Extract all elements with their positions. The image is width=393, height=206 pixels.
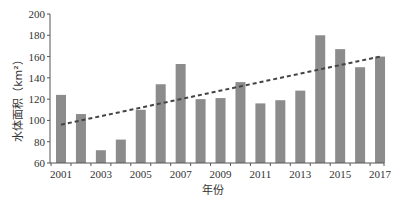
bar-2001 bbox=[56, 95, 66, 163]
bar-2004 bbox=[116, 140, 126, 163]
bar-2009 bbox=[216, 98, 226, 163]
bar-2013 bbox=[295, 91, 305, 163]
bars-group bbox=[56, 35, 385, 163]
y-tick-label: 60 bbox=[34, 157, 46, 169]
x-axis-title: 年份 bbox=[202, 183, 224, 197]
bar-2006 bbox=[156, 84, 166, 163]
y-tick-label: 180 bbox=[29, 29, 46, 41]
bar-2012 bbox=[275, 100, 285, 163]
bar-2007 bbox=[176, 64, 186, 163]
bar-chart: 6080100120140160180200200120032005200720… bbox=[0, 0, 393, 206]
bar-2005 bbox=[136, 110, 146, 163]
x-tick-label: 2015 bbox=[329, 168, 352, 180]
x-tick-label: 2009 bbox=[210, 168, 233, 180]
bar-2014 bbox=[315, 35, 325, 163]
x-tick-label: 2007 bbox=[170, 168, 193, 180]
bar-2017 bbox=[375, 57, 385, 163]
x-tick-label: 2005 bbox=[130, 168, 153, 180]
y-tick-label: 160 bbox=[29, 51, 46, 63]
x-tick-label: 2013 bbox=[289, 168, 312, 180]
bar-2010 bbox=[235, 82, 245, 163]
x-tick-label: 2011 bbox=[250, 168, 272, 180]
x-tick-label: 2017 bbox=[369, 168, 392, 180]
y-axis-title: 水体面积（km²） bbox=[11, 54, 25, 142]
y-tick-label: 80 bbox=[34, 136, 46, 148]
y-tick-label: 120 bbox=[29, 93, 46, 105]
x-tick-label: 2003 bbox=[90, 168, 113, 180]
bar-2008 bbox=[196, 99, 206, 163]
y-tick-label: 140 bbox=[29, 72, 46, 84]
x-tick-label: 2001 bbox=[50, 168, 72, 180]
bar-2016 bbox=[355, 67, 365, 163]
y-tick-label: 100 bbox=[29, 114, 46, 126]
bar-2011 bbox=[255, 103, 265, 163]
bar-2003 bbox=[96, 150, 106, 163]
y-tick-label: 200 bbox=[29, 8, 46, 20]
